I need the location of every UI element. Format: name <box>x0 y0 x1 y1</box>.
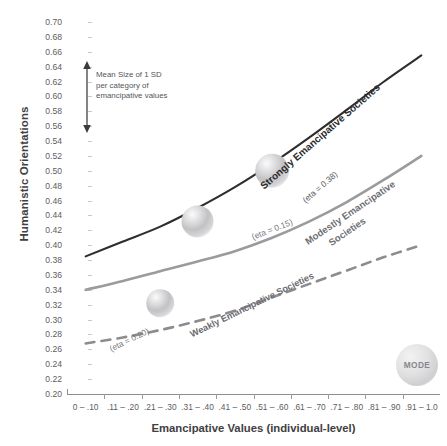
x-axis-tick-mark <box>328 394 329 399</box>
x-axis-tick-mark <box>104 394 105 399</box>
mean-sd-arrow-icon <box>83 61 91 133</box>
plot-area <box>0 0 447 446</box>
annotation-line-3: emancipative values <box>96 91 192 102</box>
chart-container: Humanistic Orientations 0.700.680.660.64… <box>0 0 447 446</box>
x-axis-tick-mark <box>216 394 217 399</box>
x-axis-tick-mark <box>179 394 180 399</box>
mode-watermark-text: MODE <box>404 360 431 370</box>
annotation-line-2: per category of <box>96 81 192 92</box>
x-axis-tick-mark <box>365 394 366 399</box>
mean-sd-annotation: Mean Size of 1 SD per category of emanci… <box>96 70 192 102</box>
annotation-line-1: Mean Size of 1 SD <box>96 70 192 81</box>
series-curve-weakly-emancipative-societies <box>86 245 422 343</box>
mode-watermark-badge: MODE <box>396 344 438 386</box>
x-axis-tick-labels: 0 – .10.11 – .20.21 – .30.31 – .40.41 – … <box>67 394 440 401</box>
x-axis-tick-mark <box>142 394 143 399</box>
x-axis-tick-mark <box>254 394 255 399</box>
x-axis-tick-mark <box>403 394 404 399</box>
bubble-mean-sd-weakly <box>146 289 174 317</box>
bubble-mean-sd-modestly <box>182 205 214 237</box>
x-axis-title: Emancipative Values (individual-level) <box>67 422 440 434</box>
x-axis-tick: .91 – 1.0 <box>391 402 447 412</box>
x-axis-tick-mark <box>291 394 292 399</box>
